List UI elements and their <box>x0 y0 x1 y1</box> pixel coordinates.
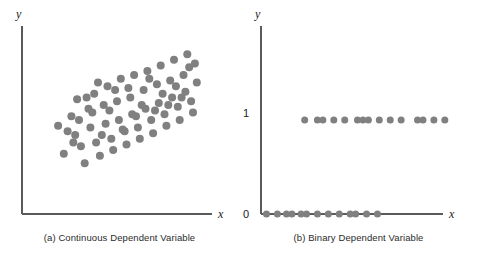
data-point <box>153 80 161 88</box>
data-point <box>90 90 98 98</box>
data-point <box>352 211 359 218</box>
data-point <box>314 211 321 218</box>
data-point <box>174 103 182 111</box>
data-point <box>374 211 381 218</box>
data-point <box>73 95 81 103</box>
data-point <box>119 125 127 133</box>
data-point <box>164 101 172 109</box>
data-point <box>138 101 146 109</box>
data-point <box>168 93 176 101</box>
data-point <box>430 117 437 124</box>
data-point <box>123 140 131 148</box>
y-axis-label: y <box>15 7 22 21</box>
data-point <box>341 117 348 124</box>
data-point <box>88 108 96 116</box>
data-point <box>86 124 94 132</box>
data-point <box>387 117 394 124</box>
data-point <box>100 101 108 109</box>
data-point <box>161 110 169 118</box>
data-point <box>176 116 184 124</box>
data-point <box>124 84 132 92</box>
data-point <box>102 120 110 128</box>
data-point <box>134 124 142 132</box>
data-point <box>288 211 295 218</box>
scatter-plot-continuous: y x <box>0 0 239 232</box>
data-point <box>319 117 326 124</box>
x-axis-label: x <box>217 207 224 221</box>
panel-caption-b: (b) Binary Dependent Variable <box>239 232 478 243</box>
data-point <box>149 129 157 137</box>
data-point <box>398 117 405 124</box>
data-point <box>151 107 159 115</box>
scatter-plot-binary: y x 1 0 <box>239 0 478 232</box>
data-point <box>274 211 281 218</box>
data-point <box>183 50 191 58</box>
data-point <box>178 93 186 101</box>
data-point <box>107 135 115 143</box>
data-point <box>189 108 197 116</box>
data-point <box>98 131 106 139</box>
data-point <box>170 56 178 64</box>
data-point <box>159 90 167 98</box>
y-axis-label: y <box>254 7 261 21</box>
data-point <box>162 122 170 130</box>
figure-container: y x (a) Continuous Dependent Variable y … <box>0 0 478 254</box>
data-point <box>172 82 180 90</box>
data-point-group <box>263 117 448 218</box>
data-point <box>126 93 134 101</box>
data-point <box>187 97 195 105</box>
data-point <box>81 159 89 167</box>
data-point <box>330 117 337 124</box>
panel-binary: y x 1 0 (b) Binary Dependent Variable <box>239 0 478 254</box>
data-point <box>191 60 199 68</box>
data-point <box>69 139 77 147</box>
data-point <box>132 112 140 120</box>
data-point <box>113 97 121 105</box>
x-axis-label: x <box>448 207 455 221</box>
data-point <box>115 116 123 124</box>
panel-continuous: y x (a) Continuous Dependent Variable <box>0 0 239 254</box>
data-point <box>60 150 68 158</box>
data-point <box>145 75 153 83</box>
data-point <box>419 117 426 124</box>
data-point <box>136 135 144 143</box>
data-point <box>325 211 332 218</box>
data-point <box>71 131 79 139</box>
data-point <box>104 82 112 90</box>
data-point <box>117 75 125 83</box>
data-point <box>180 71 188 79</box>
data-point <box>363 211 370 218</box>
data-point <box>263 211 270 218</box>
data-point <box>64 127 72 135</box>
data-point <box>75 116 83 124</box>
data-point <box>111 86 119 94</box>
data-point <box>376 117 383 124</box>
y-tick-label-0: 0 <box>243 208 249 220</box>
data-point <box>157 61 165 69</box>
data-point <box>96 152 104 160</box>
data-point <box>143 67 151 75</box>
data-point <box>83 93 91 101</box>
data-point <box>166 77 174 85</box>
data-point <box>94 78 102 86</box>
data-point <box>365 117 372 124</box>
data-point <box>441 117 448 124</box>
data-point <box>130 71 138 79</box>
data-point <box>140 86 148 94</box>
y-tick-label-1: 1 <box>243 107 249 119</box>
data-point-group <box>54 50 201 167</box>
data-point <box>301 117 308 124</box>
data-point <box>109 146 117 154</box>
data-point <box>303 211 310 218</box>
data-point <box>54 122 62 130</box>
data-point <box>67 112 75 120</box>
data-point <box>92 139 100 147</box>
data-point <box>105 107 113 115</box>
data-point <box>193 78 201 86</box>
panel-caption-a: (a) Continuous Dependent Variable <box>0 232 239 243</box>
data-point <box>336 211 343 218</box>
data-point <box>147 116 155 124</box>
data-point <box>77 142 85 150</box>
data-point <box>155 99 163 107</box>
